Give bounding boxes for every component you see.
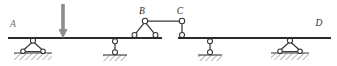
ground-lines-group [14,53,309,55]
support-3 [208,39,213,55]
support-d-right-base-pin [298,49,303,54]
ground-hatch-support-a [14,53,52,60]
support-d [278,38,303,54]
point-load-arrow [59,4,68,39]
beam-diagram-canvas: A B C D [0,0,337,66]
node-labels: A B C D [9,6,322,30]
support-3-top-pin [208,39,213,44]
ground-hatch-support-2 [103,55,127,61]
label-d: D [315,18,323,28]
linkage-b-left-foot-pin [132,33,137,38]
linkage-b-right-foot-pin [153,33,158,38]
support-3-bottom-pin [208,50,213,55]
ground-hatch-group [14,53,309,61]
support-2-top-pin [113,39,118,44]
support-2-bottom-pin [113,50,118,55]
support-a-left-base-pin [21,49,26,54]
support-a-right-base-pin [41,49,46,54]
beam-diagram-figure: A B C D [0,0,337,66]
support-2 [113,39,118,55]
label-c: C [177,6,184,16]
support-d-left-base-pin [278,49,283,54]
linkage-c-top-pin [179,18,184,23]
linkage-b-apex-pin [142,18,147,23]
label-a: A [9,19,16,29]
hinge-linkage [132,18,185,37]
support-a [21,38,46,54]
linkage-c-foot-pin [180,33,185,38]
ground-hatch-support-3 [198,55,222,61]
ground-hatch-support-d [271,53,309,60]
label-b: B [139,6,145,16]
